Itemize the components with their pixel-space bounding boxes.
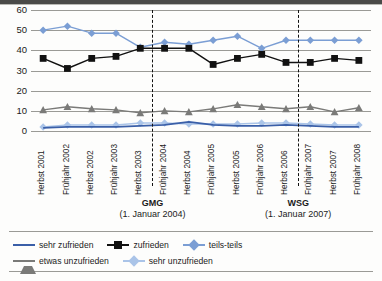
y-tick-label-30: 30	[16, 66, 27, 75]
data-point	[355, 57, 362, 64]
legend-marker-icon	[13, 239, 35, 251]
chart-figure: 0102030405060 Herbst 2001Frühjahr 2002He…	[0, 0, 382, 281]
legend-item-sehr-zufrieden[interactable]: sehr zufrieden	[13, 239, 93, 251]
x-tick-label-12: Herbst 2007	[330, 150, 338, 195]
event-date-wsg: (1. Januar 2007)	[243, 209, 353, 220]
data-point	[355, 104, 363, 111]
data-point	[331, 37, 339, 45]
legend-item-zufrieden[interactable]: zufrieden	[107, 239, 168, 251]
data-point	[185, 45, 192, 52]
x-axis-labels: Herbst 2001Frühjahr 2002Herbst 2002Frühj…	[31, 133, 371, 195]
series-teils-teils	[39, 22, 362, 52]
data-point	[307, 37, 315, 45]
x-tick-label-8: Herbst 2005	[233, 150, 241, 195]
legend-label: sehr unzufrieden	[149, 256, 213, 266]
data-point	[161, 39, 169, 47]
data-point	[137, 45, 144, 52]
event-date-gmg: (1. Januar 2004)	[97, 209, 207, 220]
data-point	[161, 45, 168, 52]
data-point	[88, 55, 95, 62]
x-tick-label-11: Frühjahr 2007	[305, 144, 313, 195]
x-tick-label-3: Frühjahr 2003	[111, 144, 119, 195]
y-tick-label-40: 40	[16, 45, 27, 54]
x-tick-label-1: Frühjahr 2002	[63, 144, 71, 195]
chart-legend: sehr zufriedenzufriedenteils-teils etwas…	[9, 231, 373, 272]
x-tick-label-4: Herbst 2003	[135, 150, 143, 195]
data-point	[40, 55, 47, 62]
data-point	[355, 37, 363, 45]
series-etwas-unzufrieden	[39, 101, 363, 116]
data-point	[209, 37, 217, 45]
series-zufrieden	[40, 45, 363, 72]
event-annotation-gmg: GMG(1. Januar 2004)	[97, 198, 207, 220]
y-tick-label-0: 0	[22, 126, 27, 135]
series-layer	[31, 10, 371, 131]
data-point	[283, 59, 290, 66]
y-tick-label-60: 60	[16, 5, 27, 14]
legend-row-1: sehr zufriedenzufriedenteils-teils	[9, 237, 373, 253]
data-point	[258, 51, 265, 58]
legend-item-teils-teils[interactable]: teils-teils	[183, 239, 242, 251]
data-point	[234, 32, 242, 40]
x-tick-label-7: Frühjahr 2005	[208, 144, 216, 195]
x-tick-label-5: Frühjahr 2004	[160, 144, 168, 195]
data-point	[331, 55, 338, 62]
x-tick-label-13: Frühjahr 2008	[354, 144, 362, 195]
event-line-wsg	[298, 10, 299, 186]
data-point	[258, 45, 266, 53]
y-tick-label-20: 20	[16, 86, 27, 95]
x-tick-label-10: Herbst 2006	[281, 150, 289, 195]
x-tick-label-0: Herbst 2001	[38, 150, 46, 195]
legend-label: zufrieden	[133, 240, 168, 250]
legend-item-etwas-unzufrieden[interactable]: etwas unzufrieden	[13, 255, 109, 267]
top-rule-thin-decoration	[0, 4, 382, 5]
legend-marker-icon	[183, 239, 205, 251]
y-tick-label-50: 50	[16, 25, 27, 34]
data-point	[64, 65, 71, 72]
legend-marker-icon	[13, 255, 35, 267]
legend-marker-icon	[123, 255, 145, 267]
data-point	[39, 26, 47, 33]
legend-label: sehr zufrieden	[39, 240, 93, 250]
event-line-gmg	[152, 10, 153, 186]
legend-label: etwas unzufrieden	[39, 256, 109, 266]
data-point	[88, 29, 96, 36]
event-name-wsg: WSG	[243, 198, 353, 209]
data-point	[210, 61, 217, 68]
event-annotation-wsg: WSG(1. Januar 2007)	[243, 198, 353, 220]
series-sehr-unzufrieden	[39, 119, 362, 131]
x-tick-label-2: Herbst 2002	[87, 150, 95, 195]
x-tick-label-9: Frühjahr 2006	[257, 144, 265, 195]
y-axis-labels: 0102030405060	[0, 10, 27, 131]
legend-item-sehr-unzufrieden[interactable]: sehr unzufrieden	[123, 255, 213, 267]
data-point	[64, 22, 72, 30]
data-point	[234, 55, 241, 62]
legend-label: teils-teils	[209, 240, 242, 250]
data-point	[112, 29, 120, 36]
x-tick-label-6: Herbst 2004	[184, 150, 192, 195]
event-name-gmg: GMG	[97, 198, 207, 209]
y-tick-label-10: 10	[16, 106, 27, 115]
data-point	[113, 53, 120, 60]
gridline-0	[31, 131, 371, 132]
legend-marker-icon	[107, 239, 129, 251]
legend-row-2: etwas unzufriedensehr unzufrieden	[9, 253, 373, 269]
data-point	[282, 37, 290, 45]
data-point	[307, 59, 314, 66]
